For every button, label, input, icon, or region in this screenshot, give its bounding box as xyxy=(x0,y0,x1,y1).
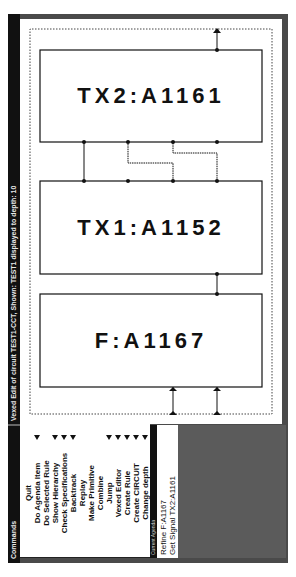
agenda-list: Refine F:A1167 Get Signal TX2:A1161 xyxy=(157,425,178,558)
submenu-triangle-icon xyxy=(34,435,40,440)
command-replay[interactable]: Replay xyxy=(78,429,87,557)
title-separator xyxy=(8,424,20,426)
command-change-depth[interactable]: Change depth xyxy=(141,429,150,557)
command-do-agenda-item[interactable]: Do Agenda Item xyxy=(33,429,42,557)
submenu-triangle-icon xyxy=(133,435,139,440)
title-bar: Commands Vexed Edit of circuit TEST1-CCT… xyxy=(8,14,20,563)
command-make-primitive[interactable]: Make Primitive xyxy=(87,429,96,557)
command-show-hierarchy[interactable]: Show Hierarchy xyxy=(51,429,60,557)
svg-text:F:A1167: F:A1167 xyxy=(95,328,207,353)
submenu-triangle-icon xyxy=(106,435,112,440)
command-create-circuit[interactable]: Create CIRCUIT xyxy=(132,429,141,557)
module-tx2[interactable]: TX2:A1161 xyxy=(40,50,262,142)
command-quit[interactable]: Quit xyxy=(24,429,33,557)
empty-pane xyxy=(178,425,286,558)
module-tx1[interactable]: TX1:A1152 xyxy=(40,181,262,274)
submenu-triangle-icon xyxy=(61,435,67,440)
vexed-application-window: Commands Vexed Edit of circuit TEST1-CCT… xyxy=(0,0,296,577)
command-check-specifications[interactable]: Check Specifications xyxy=(60,429,69,557)
submenu-triangle-icon xyxy=(142,435,148,440)
output-arrow-icon xyxy=(213,28,221,33)
submenu-triangle-icon xyxy=(115,435,121,440)
command-jump[interactable]: Jump xyxy=(105,429,114,557)
submenu-triangle-icon xyxy=(52,435,58,440)
commands-menu: Quit Do Agenda Item Do Selected Rule Sho… xyxy=(20,424,150,558)
module-f[interactable]: F:A1167 xyxy=(40,294,262,387)
commands-pane-title: Commands xyxy=(8,521,20,559)
agenda-item[interactable]: Refine F:A1167 xyxy=(159,428,168,555)
agenda-title: Current Agenda xyxy=(150,425,157,558)
agenda-item[interactable]: Get Signal TX2:A1161 xyxy=(168,428,177,555)
command-vexed-editor[interactable]: Vexed Editor xyxy=(114,429,123,557)
command-create-rule[interactable]: Create Rule xyxy=(123,429,132,557)
window-title: Vexed Edit of circuit TEST1-CCT, Shown: … xyxy=(8,186,20,421)
circuit-canvas[interactable]: F:A1167 TX1:A1152 TX2:A1161 xyxy=(20,19,282,424)
command-combine[interactable]: Combine xyxy=(96,429,105,557)
submenu-triangle-icon xyxy=(70,435,76,440)
command-backtrack[interactable]: Backtrack xyxy=(69,429,78,557)
command-do-selected-rule[interactable]: Do Selected Rule xyxy=(42,429,51,557)
svg-text:TX1:A1152: TX1:A1152 xyxy=(77,215,224,240)
submenu-triangle-icon xyxy=(124,435,130,440)
svg-text:TX2:A1161: TX2:A1161 xyxy=(77,83,224,108)
